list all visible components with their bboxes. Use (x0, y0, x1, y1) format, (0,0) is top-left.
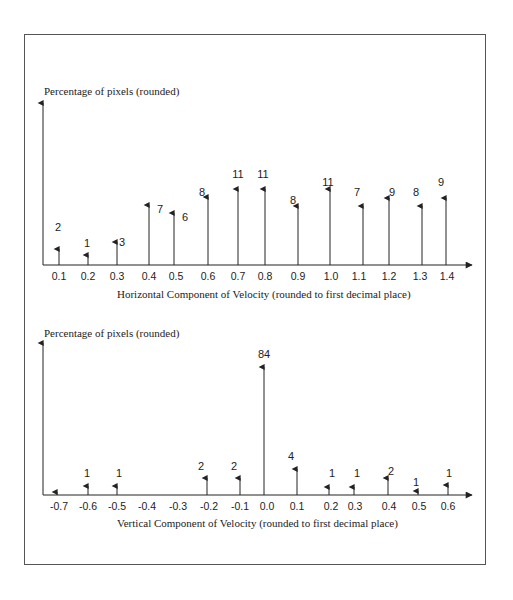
top-value-labels: 2 1 3 7 6 8 11 11 8 11 7 9 8 9 (55, 168, 444, 249)
svg-text:-0.2: -0.2 (200, 500, 218, 512)
svg-text:1.4: 1.4 (440, 270, 455, 282)
bottom-x-tick-labels: -0.7 -0.6 -0.5 -0.4 -0.3 -0.2 -0.1 0.0 0… (50, 500, 455, 512)
svg-text:1: 1 (84, 237, 90, 249)
svg-text:0.2: 0.2 (324, 500, 339, 512)
svg-text:-0.1: -0.1 (231, 500, 249, 512)
svg-text:1: 1 (354, 467, 360, 479)
svg-text:0.2: 0.2 (81, 270, 96, 282)
svg-text:11: 11 (322, 176, 333, 188)
svg-text:2: 2 (388, 465, 394, 477)
svg-text:1.3: 1.3 (413, 270, 428, 282)
svg-text:1.1: 1.1 (352, 270, 367, 282)
svg-text:11: 11 (232, 168, 243, 180)
horizontal-velocity-chart: Percentage of pixels (rounded) 2 1 3 7 6 (43, 85, 472, 301)
svg-text:0.6: 0.6 (201, 270, 216, 282)
svg-text:9: 9 (389, 186, 395, 198)
svg-text:0.3: 0.3 (110, 270, 125, 282)
svg-text:2: 2 (198, 460, 204, 472)
svg-text:9: 9 (438, 176, 444, 188)
svg-text:1: 1 (446, 467, 452, 479)
bottom-x-axis-label: Vertical Component of Velocity (rounded … (117, 517, 398, 530)
svg-text:7: 7 (157, 203, 163, 215)
svg-text:8: 8 (199, 186, 205, 198)
svg-text:0.7: 0.7 (231, 270, 246, 282)
svg-text:0.3: 0.3 (348, 500, 363, 512)
svg-text:8: 8 (290, 194, 296, 206)
svg-text:8: 8 (413, 186, 419, 198)
svg-text:0.4: 0.4 (382, 500, 397, 512)
svg-text:0.8: 0.8 (258, 270, 273, 282)
charts-canvas: Percentage of pixels (rounded) 2 1 3 7 6 (0, 0, 513, 600)
svg-text:-0.4: -0.4 (138, 500, 156, 512)
top-x-axis-label: Horizontal Component of Velocity (rounde… (117, 288, 411, 301)
svg-text:1.2: 1.2 (382, 270, 397, 282)
top-stems (59, 189, 446, 265)
vertical-velocity-chart: Percentage of pixels (rounded) 1 1 2 2 8… (43, 327, 472, 530)
svg-text:-0.5: -0.5 (108, 500, 126, 512)
svg-text:0.9: 0.9 (291, 270, 306, 282)
svg-text:1: 1 (329, 467, 335, 479)
svg-text:1: 1 (413, 476, 419, 488)
svg-text:2: 2 (55, 221, 61, 233)
svg-text:-0.3: -0.3 (169, 500, 187, 512)
top-x-tick-labels: 0.1 0.2 0.3 0.4 0.5 0.6 0.7 0.8 0.9 1.0 … (52, 270, 455, 282)
svg-text:-0.7: -0.7 (50, 500, 68, 512)
svg-text:-0.6: -0.6 (79, 500, 97, 512)
top-y-axis-label: Percentage of pixels (rounded) (44, 85, 180, 98)
svg-text:0.6: 0.6 (441, 500, 456, 512)
svg-text:7: 7 (354, 186, 360, 198)
svg-text:0.1: 0.1 (52, 270, 67, 282)
svg-text:4: 4 (288, 450, 294, 462)
svg-text:2: 2 (231, 460, 237, 472)
svg-text:11: 11 (257, 168, 268, 180)
svg-text:6: 6 (182, 211, 188, 223)
svg-text:0.5: 0.5 (169, 270, 184, 282)
svg-text:0.1: 0.1 (290, 500, 305, 512)
svg-text:1.0: 1.0 (324, 270, 339, 282)
svg-text:84: 84 (258, 348, 270, 360)
svg-text:1: 1 (116, 467, 122, 479)
svg-text:0.5: 0.5 (412, 500, 427, 512)
svg-text:0.0: 0.0 (260, 500, 275, 512)
svg-text:1: 1 (84, 467, 90, 479)
bottom-value-labels: 1 1 2 2 84 4 1 1 2 1 1 (84, 348, 452, 488)
svg-text:3: 3 (119, 236, 125, 248)
bottom-y-axis-label: Percentage of pixels (rounded) (44, 327, 180, 340)
svg-text:0.4: 0.4 (142, 270, 157, 282)
